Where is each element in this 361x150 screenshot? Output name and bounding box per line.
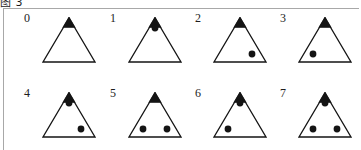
triangle-cell: 6 — [193, 87, 279, 150]
filled-circle-icon-top — [152, 25, 159, 32]
triangle-cell: 4 — [22, 87, 108, 150]
filled-circle-icon-bottom-right — [78, 126, 85, 133]
triangle-label: 7 — [280, 87, 286, 99]
filled-circle-icon-bottom-left — [140, 126, 147, 133]
triangle-label: 6 — [195, 87, 201, 99]
filled-circle-icon-bottom-right — [334, 126, 341, 133]
triangle-figure — [40, 14, 98, 68]
triangle-figure — [126, 14, 184, 68]
filled-circle-icon-top — [66, 100, 73, 107]
triangle-cell: 1 — [108, 12, 194, 80]
filled-circle-icon-bottom-left — [310, 51, 317, 58]
triangle-figure — [296, 14, 354, 68]
triangle-label: 0 — [24, 12, 30, 24]
triangle-figure — [296, 89, 354, 143]
triangle-label: 1 — [110, 12, 116, 24]
triangle-label: 2 — [195, 12, 201, 24]
triangle-figure — [211, 14, 269, 68]
triangle-cell: 2 — [193, 12, 279, 80]
triangle-grid: 01234567 — [0, 0, 361, 150]
filled-circle-icon-top — [322, 100, 329, 107]
triangle-cell: 5 — [108, 87, 194, 150]
filled-apex-triangle-icon — [319, 17, 331, 28]
filled-circle-icon-top — [237, 100, 244, 107]
filled-apex-triangle-icon — [234, 17, 246, 28]
triangle-figure — [211, 89, 269, 143]
triangle-label: 3 — [280, 12, 286, 24]
filled-apex-triangle-icon — [149, 92, 161, 103]
filled-circle-icon-bottom-right — [164, 126, 171, 133]
triangle-figure — [40, 89, 98, 143]
filled-circle-icon-bottom-left — [310, 126, 317, 133]
triangle-label: 4 — [24, 87, 30, 99]
triangle-cell: 7 — [278, 87, 361, 150]
filled-apex-triangle-icon — [63, 17, 75, 28]
filled-circle-icon-bottom-left — [225, 126, 232, 133]
triangle-cell: 3 — [278, 12, 361, 80]
triangle-cell: 0 — [22, 12, 108, 80]
triangle-label: 5 — [110, 87, 116, 99]
triangle-figure — [126, 89, 184, 143]
figure-root: 图 3 01234567 — [0, 0, 361, 150]
filled-circle-icon-bottom-right — [249, 51, 256, 58]
